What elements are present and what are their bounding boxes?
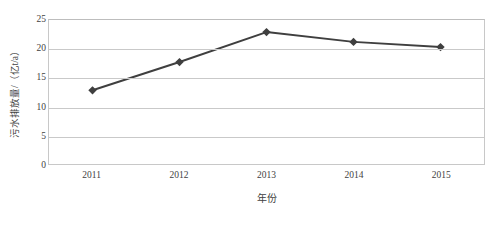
y-axis-tick-labels: 0510152025 (22, 19, 46, 165)
x-axis-tick-label: 2013 (237, 168, 297, 182)
data-point-marker (262, 28, 270, 36)
gridline (49, 49, 484, 50)
y-axis-title: 污水排放量/（亿t/a） (8, 12, 22, 172)
gridline (49, 78, 484, 79)
y-axis-tick-label: 25 (22, 14, 46, 24)
x-axis-tick-label: 2012 (149, 168, 209, 182)
x-axis-tick-label: 2011 (62, 168, 122, 182)
x-axis-title: 年份 (48, 192, 485, 206)
y-axis-tick-label: 10 (22, 102, 46, 112)
series-layer (49, 20, 484, 164)
x-axis-tick-label: 2014 (324, 168, 384, 182)
gridline (49, 108, 484, 109)
y-axis-tick-label: 5 (22, 131, 46, 141)
line-chart: 污水排放量/（亿t/a） 0510152025 2011201220132014… (0, 0, 497, 226)
plot-area (48, 19, 485, 165)
y-axis-tick-label: 15 (22, 72, 46, 82)
x-axis-tick-label: 2015 (411, 168, 471, 182)
gridline (49, 137, 484, 138)
y-axis-tick-label: 0 (22, 160, 46, 170)
data-point-marker (175, 58, 183, 66)
series-line (93, 32, 441, 90)
data-point-marker (349, 38, 357, 46)
x-axis-tick-labels: 20112012201320142015 (48, 168, 485, 182)
data-point-marker (88, 86, 96, 94)
y-axis-tick-label: 20 (22, 43, 46, 53)
